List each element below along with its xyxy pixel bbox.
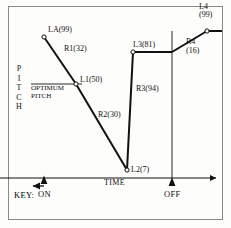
- vertex-marker-l1: [74, 82, 78, 86]
- vertex-marker-l2: [125, 168, 129, 172]
- segment-label-r2: R2(30): [98, 111, 121, 120]
- segment-label-r3: R3(94): [136, 85, 159, 94]
- y-axis-label-char-h: H: [13, 102, 25, 112]
- vertex-label-l4-line2: (99): [199, 11, 212, 19]
- segment-label-r4-line2: (16): [186, 47, 199, 56]
- y-axis-label-char-i: I: [13, 74, 25, 84]
- y-axis-label-char-c: C: [13, 93, 25, 103]
- key-off-label: OFF: [164, 190, 181, 199]
- y-axis-label: P I T C H: [13, 64, 25, 112]
- vertex-marker-l4: [205, 29, 209, 33]
- vertex-marker-l3: [131, 50, 135, 54]
- segment-r3: [127, 52, 133, 170]
- segment-label-r4: R4 (16): [186, 38, 199, 55]
- vertex-marker-la: [42, 35, 46, 39]
- key-on-arrowhead-icon: [41, 176, 48, 185]
- key-legend-label: KEY:: [14, 190, 34, 200]
- x-axis-label: TIME: [104, 179, 125, 188]
- optimum-pitch-line2: PITCH: [31, 93, 64, 101]
- vertex-label-l4: L4 (99): [199, 3, 212, 20]
- vertex-label-l2: L2(7): [131, 166, 149, 175]
- figure-container: P I T C H OPTIMUM PITCH LA(99) L1(50) L2…: [0, 0, 231, 228]
- vertex-label-la: LA(99): [48, 26, 72, 35]
- y-axis-label-char-p: P: [13, 64, 25, 74]
- optimum-pitch-label: OPTIMUM PITCH: [31, 85, 64, 100]
- segment-label-r1: R1(32): [64, 45, 87, 54]
- key-on-label: ON: [38, 190, 51, 199]
- vertex-label-l1: L1(50): [80, 76, 102, 85]
- vertex-label-l3: L3(81): [133, 41, 155, 50]
- segment-r2: [76, 84, 127, 170]
- y-axis-label-char-t: T: [13, 83, 25, 93]
